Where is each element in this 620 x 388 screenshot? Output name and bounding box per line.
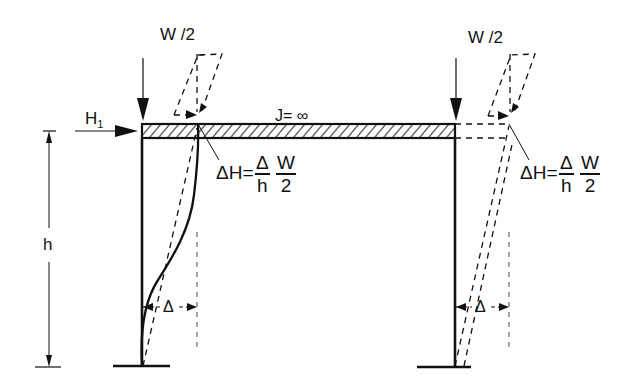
left-frac1-denominator: h <box>257 175 268 195</box>
right-frac1-denominator: h <box>561 175 572 195</box>
horizontal-load-label: H1 <box>85 110 103 130</box>
right-fraction-w-over-2: W 2 <box>580 153 600 195</box>
right-vertical-load-label: W /2 <box>468 29 503 46</box>
right-fraction-delta-over-h: Δ h <box>559 153 574 195</box>
right-annotation-leader <box>509 124 529 160</box>
height-label: h <box>43 236 52 253</box>
left-delta-h-lhs: ΔH= <box>216 163 254 182</box>
left-vertical-load-arrow <box>137 58 149 121</box>
left-drift-label: Δ <box>163 299 174 315</box>
right-drift-label: Δ <box>475 299 486 315</box>
horizontal-load-symbol: H <box>85 109 97 128</box>
portal-frame-diagram <box>0 0 620 388</box>
left-fraction-delta-over-h: Δ h <box>255 153 270 195</box>
left-frac2-numerator: W <box>276 153 296 175</box>
left-vertical-load-label: W /2 <box>160 26 195 43</box>
left-frac2-denominator: 2 <box>281 175 292 195</box>
left-fraction-w-over-2: W 2 <box>276 153 296 195</box>
right-sway-dashed <box>455 54 535 366</box>
left-frac1-numerator: Δ <box>255 153 270 175</box>
left-sway-dashed <box>143 54 222 366</box>
beam-stiffness-label: J= ∞ <box>275 108 308 124</box>
horizontal-load-subscript: 1 <box>97 118 103 130</box>
right-vertical-load-arrow <box>450 58 462 121</box>
right-frac2-numerator: W <box>580 153 600 175</box>
right-frac1-numerator: Δ <box>559 153 574 175</box>
right-displacement-arrows <box>498 103 519 120</box>
rigid-beam <box>142 124 455 138</box>
right-delta-h-lhs: ΔH= <box>520 163 558 182</box>
right-frac2-denominator: 2 <box>585 175 596 195</box>
